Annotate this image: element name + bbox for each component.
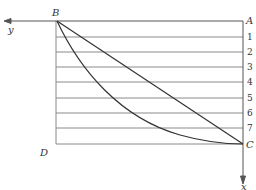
row-label-4: 4	[247, 77, 253, 87]
y-axis	[4, 19, 243, 24]
label-C: C	[246, 139, 254, 150]
label-D: D	[39, 147, 48, 158]
row-label-7: 7	[247, 123, 253, 133]
label-B: B	[51, 7, 59, 18]
label-x-axis: x	[241, 181, 247, 190]
row-label-1: 1	[247, 32, 253, 42]
label-y-axis: y	[7, 24, 14, 35]
row-label-6: 6	[247, 108, 253, 118]
label-A: A	[245, 15, 253, 26]
x-axis	[241, 21, 246, 184]
row-label-5: 5	[247, 93, 253, 103]
y-axis-arrow-icon	[4, 19, 11, 24]
diagram-canvas: B A C D y x 1 2 3 4 5 6 7	[0, 0, 256, 190]
row-label-2: 2	[247, 47, 253, 57]
row-label-3: 3	[247, 62, 253, 72]
